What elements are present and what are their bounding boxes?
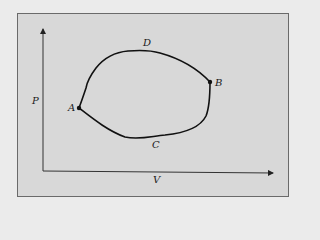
lower-path-acb — [79, 82, 210, 138]
path-d-label: D — [143, 38, 151, 48]
x-axis-label: V — [153, 175, 160, 185]
point-a-label: A — [68, 103, 75, 113]
y-axis-label: P — [32, 96, 39, 106]
upper-path-adb — [79, 50, 210, 108]
point-b-marker — [208, 80, 212, 84]
point-b-label: B — [215, 78, 222, 88]
path-c-label: C — [152, 140, 160, 150]
x-axis — [43, 171, 273, 173]
point-a-marker — [77, 106, 81, 110]
